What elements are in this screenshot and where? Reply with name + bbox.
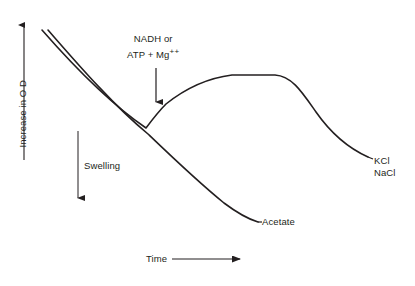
- swelling-label: Swelling: [84, 160, 120, 172]
- chart-figure: ) --> Increase in O D Time NADH orATP + …: [0, 0, 415, 286]
- treatment-annotation-line2: ATP + Mg: [127, 49, 169, 60]
- chart-plot-area: ) -->: [0, 0, 415, 286]
- x-axis-label: Time: [146, 253, 167, 265]
- treatment-annotation: NADH orATP + Mg++: [127, 33, 179, 61]
- curve-kcl-nacl: [42, 30, 368, 157]
- curve-label-nacl: NaCl: [374, 167, 396, 179]
- kcl-nacl-leader-line: [368, 157, 373, 159]
- treatment-annotation-superscript: ++: [169, 47, 179, 56]
- y-axis-label: Increase in O D: [17, 64, 29, 164]
- curve-label-acetate: Acetate: [262, 216, 295, 228]
- curve-label-kcl: KCl: [374, 155, 390, 167]
- treatment-annotation-line1: NADH or: [134, 33, 173, 44]
